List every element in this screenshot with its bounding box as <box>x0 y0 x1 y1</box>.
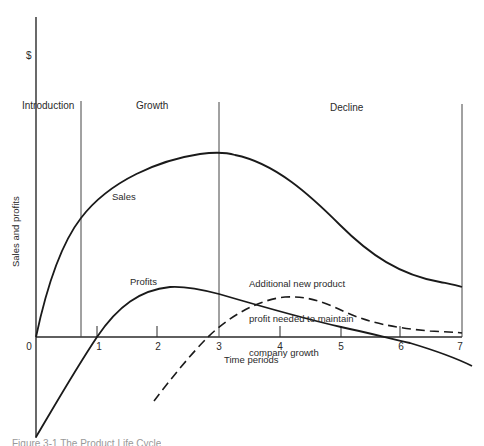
x-axis-label: Time periods <box>224 354 279 365</box>
dollar-label: $ <box>26 50 32 61</box>
stage-growth-label: Growth <box>136 100 168 111</box>
tick-3: 3 <box>216 341 222 352</box>
tick-4: 4 <box>277 341 283 352</box>
chart-canvas <box>0 0 484 446</box>
tick-1: 1 <box>96 341 102 352</box>
sales-label: Sales <box>112 191 136 202</box>
additional-profit-annotation: Additional new product profit needed to … <box>249 255 354 370</box>
tick-2: 2 <box>155 341 161 352</box>
annotation-line-1: Additional new product <box>249 278 354 290</box>
tick-6: 6 <box>398 341 404 352</box>
tick-5: 5 <box>338 341 344 352</box>
stage-decline-label: Decline <box>330 102 363 113</box>
profits-label: Profits <box>130 276 157 287</box>
annotation-line-2: profit needed to maintain <box>249 313 354 325</box>
figure-caption: Figure 3-1 The Product Life Cycle <box>12 438 161 446</box>
y-axis-label: Sales and profits <box>10 196 21 267</box>
tick-7: 7 <box>457 341 463 352</box>
tick-0: 0 <box>26 341 32 352</box>
stage-introduction-label: Introduction <box>22 100 74 111</box>
